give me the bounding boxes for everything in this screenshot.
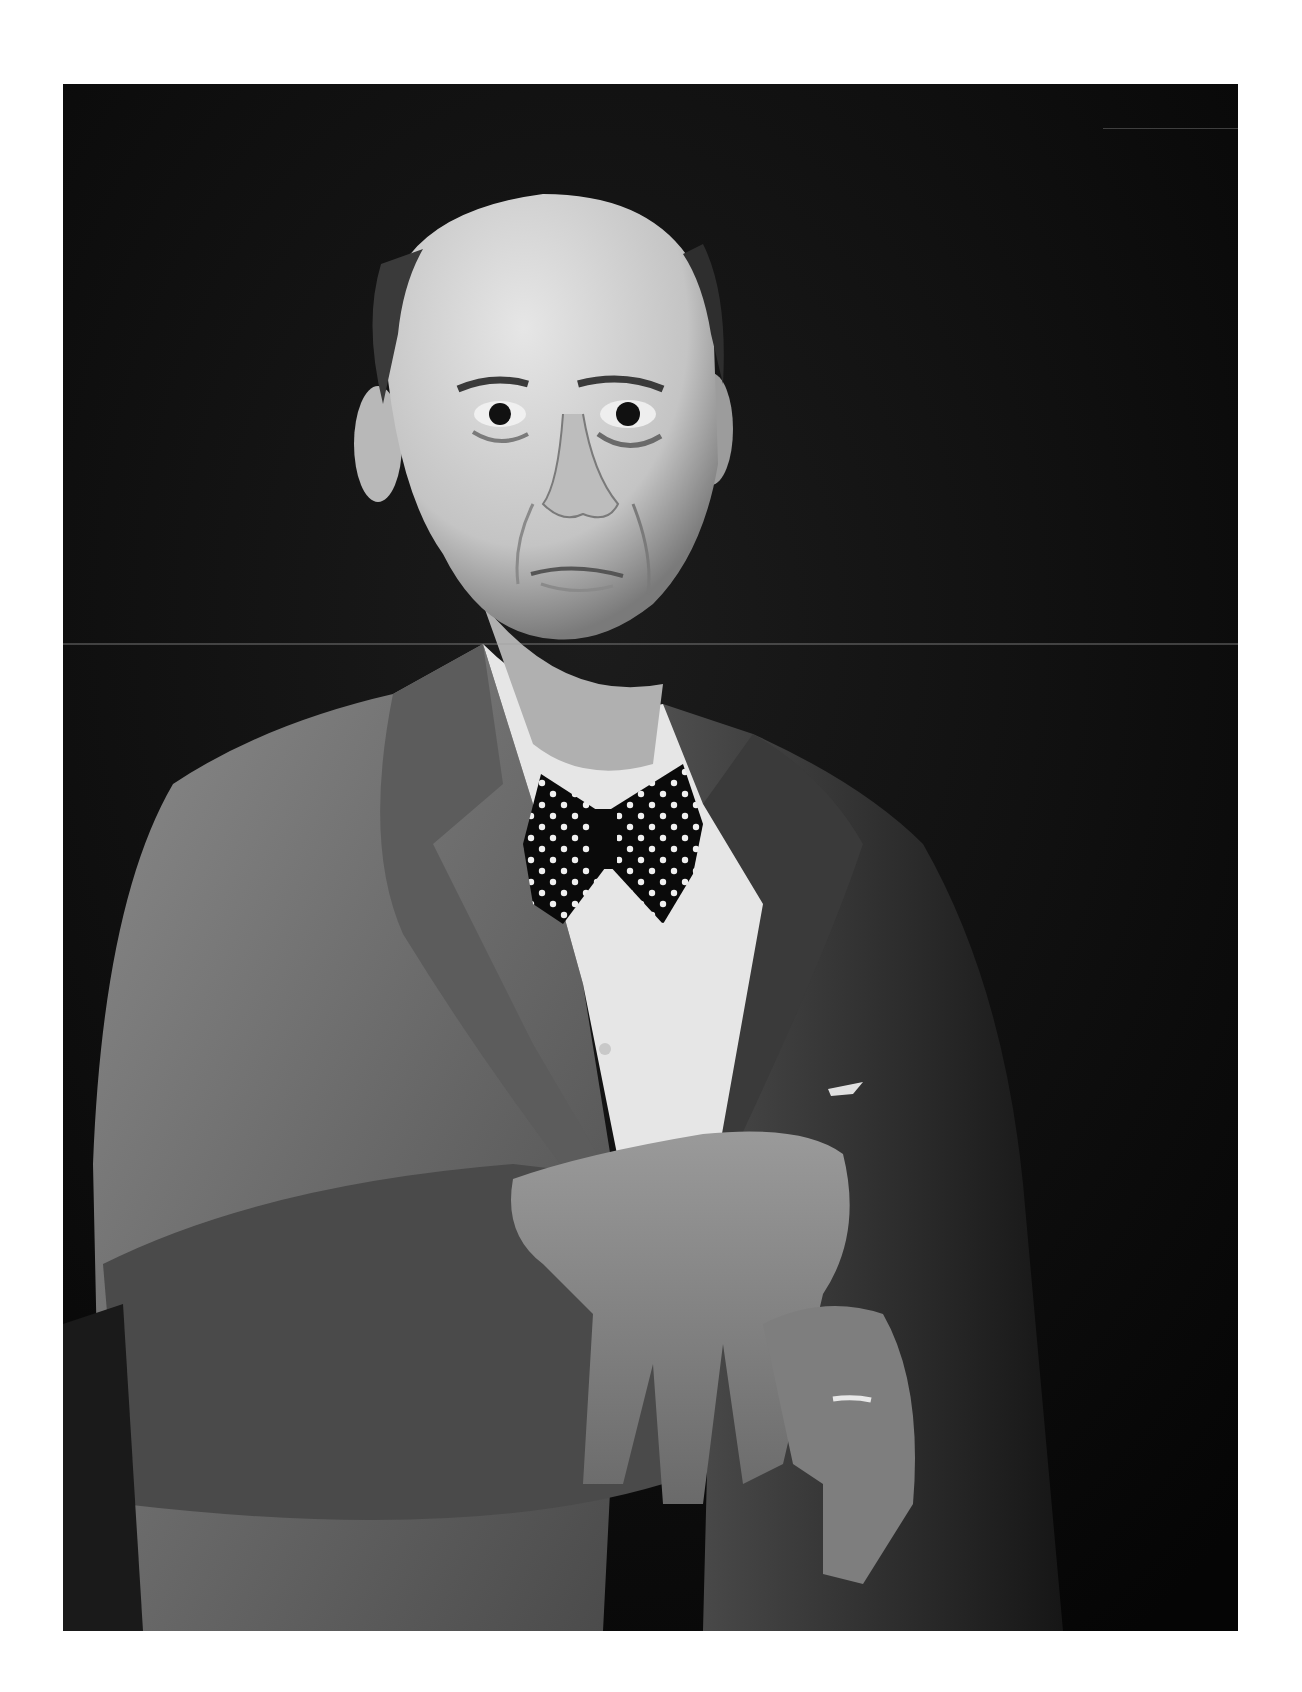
- portrait-photo: [63, 84, 1238, 1631]
- left-pupil: [489, 403, 511, 425]
- shirt-button: [599, 1043, 611, 1055]
- paper-crease: [63, 643, 1238, 645]
- scratch-line: [1103, 128, 1238, 129]
- portrait-illustration: [63, 84, 1238, 1631]
- wedding-ring: [833, 1398, 871, 1400]
- right-pupil: [616, 402, 640, 426]
